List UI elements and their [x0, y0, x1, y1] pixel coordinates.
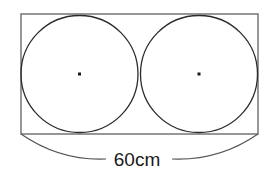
right-circle-center-dot	[198, 73, 201, 76]
dimension-label-60cm: 60cm	[114, 149, 160, 170]
left-circle-center-dot	[78, 73, 81, 76]
geometry-figure-container: 60cm	[0, 0, 274, 180]
geometry-figure-svg: 60cm	[0, 0, 274, 180]
